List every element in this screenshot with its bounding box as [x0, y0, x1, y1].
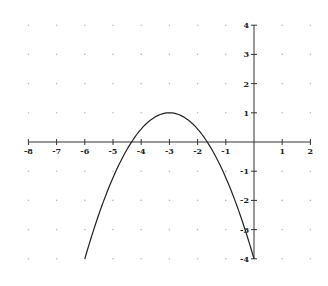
grid-dot: [140, 54, 142, 56]
x-tick-label: -2: [193, 146, 202, 156]
grid-dot: [197, 170, 199, 172]
x-tick-label: -7: [52, 146, 61, 156]
grid-dot: [28, 258, 30, 260]
grid-dot: [28, 170, 30, 172]
grid-dot: [281, 54, 283, 56]
x-tick-label: -5: [109, 146, 118, 156]
grid-dot: [84, 200, 86, 202]
grid-dot: [281, 170, 283, 172]
grid-dot: [169, 258, 171, 260]
grid-dot: [310, 112, 312, 114]
grid-dot: [225, 24, 227, 26]
x-tick-label: -1: [221, 146, 230, 156]
grid-dot: [281, 200, 283, 202]
grid-dot: [140, 170, 142, 172]
grid-dot: [112, 83, 114, 85]
grid-dot: [281, 229, 283, 231]
y-tick-label: 1: [243, 108, 249, 118]
grid-dot: [281, 83, 283, 85]
x-tick-label: -8: [24, 146, 33, 156]
grid-dot: [310, 83, 312, 85]
grid-dot: [310, 200, 312, 202]
grid-dot: [169, 24, 171, 26]
grid-dot: [56, 83, 58, 85]
grid-dot: [310, 258, 312, 260]
grid-dot: [197, 200, 199, 202]
grid-dot: [28, 54, 30, 56]
grid-dot: [56, 200, 58, 202]
grid-dot: [84, 83, 86, 85]
y-tick-label: -4: [240, 254, 249, 264]
grid-dot: [225, 170, 227, 172]
grid-dot: [225, 83, 227, 85]
x-tick-label: -3: [165, 146, 174, 156]
grid-dot: [197, 229, 199, 231]
grid-dot: [169, 170, 171, 172]
y-tick-label: 3: [243, 49, 249, 59]
grid-dot: [84, 54, 86, 56]
grid-dot: [112, 258, 114, 260]
grid-dot: [140, 200, 142, 202]
x-tick-label: -4: [137, 146, 146, 156]
y-tick-label: -2: [240, 195, 249, 205]
grid-dot: [28, 200, 30, 202]
grid-dot: [28, 83, 30, 85]
grid-dot: [197, 83, 199, 85]
grid-dot: [310, 54, 312, 56]
grid-dot: [140, 112, 142, 114]
grid-dot: [56, 229, 58, 231]
grid-dot: [310, 170, 312, 172]
grid-dot: [225, 54, 227, 56]
x-tick-label: 1: [279, 146, 285, 156]
grid-dot: [56, 54, 58, 56]
grid-dot: [169, 229, 171, 231]
grid-dot: [28, 112, 30, 114]
parabola-graph: -8-7-6-5-4-3-2-1124321-1-2-3-4: [0, 0, 328, 286]
y-tick-label: 4: [243, 20, 249, 30]
grid-dot: [112, 229, 114, 231]
grid-dot: [56, 258, 58, 260]
grid-dot: [112, 200, 114, 202]
grid-dot: [140, 24, 142, 26]
grid-dot: [140, 258, 142, 260]
grid-dot: [140, 83, 142, 85]
grid-dot: [310, 24, 312, 26]
grid-dot: [169, 200, 171, 202]
parabola-curve: [85, 113, 254, 259]
grid-dot: [310, 229, 312, 231]
grid-dot: [281, 258, 283, 260]
grid-dot: [197, 112, 199, 114]
grid-dot: [112, 54, 114, 56]
x-tick-label: -6: [80, 146, 89, 156]
grid-dot: [84, 170, 86, 172]
grid-dot: [56, 112, 58, 114]
grid-dot: [112, 112, 114, 114]
grid-dot: [112, 170, 114, 172]
grid-dot: [225, 258, 227, 260]
grid-dot: [84, 112, 86, 114]
grid-dot: [28, 24, 30, 26]
y-tick-label: 2: [243, 79, 249, 89]
grid-dot: [225, 200, 227, 202]
grid-dot: [197, 54, 199, 56]
grid-dot: [225, 229, 227, 231]
grid-dot: [84, 24, 86, 26]
grid-dot: [28, 229, 30, 231]
grid-dot: [197, 258, 199, 260]
y-tick-label: -1: [240, 166, 249, 176]
x-tick-label: 2: [308, 146, 314, 156]
grid-dot: [84, 229, 86, 231]
grid-dot: [56, 24, 58, 26]
grid-dot: [225, 112, 227, 114]
grid-dot: [169, 54, 171, 56]
grid-dot: [197, 24, 199, 26]
grid-dot: [56, 170, 58, 172]
grid-dot: [281, 112, 283, 114]
grid-dot: [169, 83, 171, 85]
grid-dot: [112, 24, 114, 26]
grid-dot: [140, 229, 142, 231]
grid-dot: [281, 24, 283, 26]
